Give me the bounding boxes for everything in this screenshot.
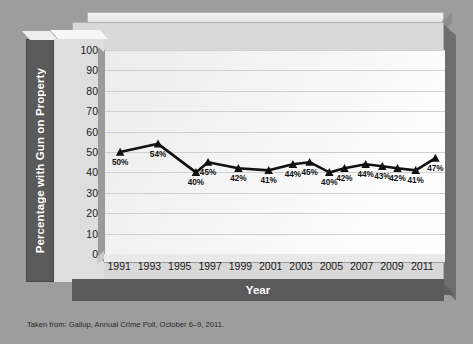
x-axis-tick-label: 1999 — [229, 260, 252, 272]
y-axis-tick-label: 10 — [86, 228, 98, 240]
x-axis-title: Year — [246, 284, 270, 296]
frame-right-shadow — [444, 25, 456, 301]
data-point-label: 40% — [188, 178, 204, 187]
x-axis-tick-label: 2001 — [259, 260, 282, 272]
data-point-label: 42% — [336, 174, 352, 183]
frame-top-slab — [87, 12, 444, 22]
y-axis-tick-column: 1009080706050403020100 — [54, 39, 104, 282]
data-point-label: 41% — [260, 176, 276, 185]
data-point-marker — [431, 154, 440, 162]
x-axis-title-band: Year — [72, 279, 444, 301]
y-axis-tick-label: 90 — [86, 64, 98, 76]
x-axis-tick-label: 1991 — [107, 260, 130, 272]
y-axis-title-band: Percentage with Gun on Property — [26, 39, 54, 282]
data-point-label: 42% — [389, 174, 405, 183]
x-axis-tick-label: 1997 — [198, 260, 221, 272]
y-axis-tick-label: 60 — [86, 126, 98, 138]
x-axis-tick-label: 1995 — [168, 260, 191, 272]
y-axis-tick-label: 70 — [86, 105, 98, 117]
y-axis-tick-label: 100 — [80, 44, 98, 56]
plot-area: 50%54%40%45%42%41%44%45%40%42%44%43%42%4… — [104, 50, 445, 254]
data-point-label: 47% — [427, 164, 443, 173]
data-point-label: 44% — [357, 170, 373, 179]
data-point-label: 45% — [301, 168, 317, 177]
source-footnote: Taken from: Gallup, Annual Crime Poll, O… — [27, 320, 224, 329]
x-axis-tick-label: 2009 — [380, 260, 403, 272]
data-point-label: 41% — [407, 176, 423, 185]
x-axis-ticks: 1991199319951997199920012003200520072009… — [104, 260, 445, 276]
x-axis-tick-label: 2011 — [411, 260, 434, 272]
y-axis-tick-label: 20 — [86, 207, 98, 219]
y-axis-tick-label: 30 — [86, 187, 98, 199]
x-axis-tick-label: 1993 — [138, 260, 161, 272]
data-point-label: 54% — [150, 150, 166, 159]
data-point-label: 40% — [321, 178, 337, 187]
x-axis-tick-label: 2003 — [289, 260, 312, 272]
y-axis-tick-label: 40 — [86, 166, 98, 178]
data-point-label: 43% — [374, 172, 390, 181]
data-point-label: 44% — [285, 170, 301, 179]
y-axis-tick-label: 50 — [86, 146, 98, 158]
x-axis-tick-label: 2005 — [320, 260, 343, 272]
data-point-label: 45% — [200, 168, 216, 177]
x-axis-tick-label: 2007 — [350, 260, 373, 272]
series-line — [120, 144, 435, 173]
data-point-label: 42% — [230, 174, 246, 183]
y-axis-tick-label: 80 — [86, 85, 98, 97]
y-column-top-cap — [50, 30, 108, 39]
data-point-label: 50% — [112, 158, 128, 167]
y-axis-title: Percentage with Gun on Property — [34, 68, 46, 253]
chart-figure: Percentage with Gun on Property 10090807… — [0, 0, 473, 344]
